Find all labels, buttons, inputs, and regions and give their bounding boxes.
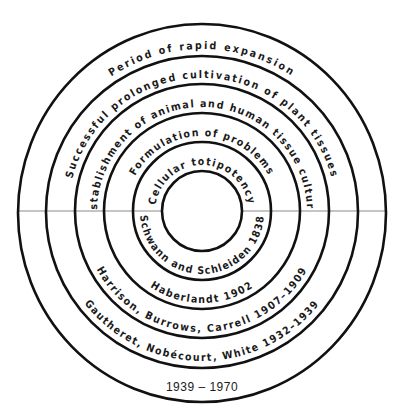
concentric-history-diagram: Cellular totipotency Formulation of prob… (0, 0, 398, 419)
label-formulation-of-problems: Formulation of problems (126, 126, 277, 177)
ring-0 (162, 171, 242, 251)
label-cellular-totipotency: Cellular totipotency (146, 155, 259, 206)
label-1939-1970: 1939 – 1970 (166, 380, 238, 394)
label-schwann-schleiden: Schwann and Schleiden 1838 (138, 214, 266, 276)
ring-5-outer (18, 24, 386, 402)
